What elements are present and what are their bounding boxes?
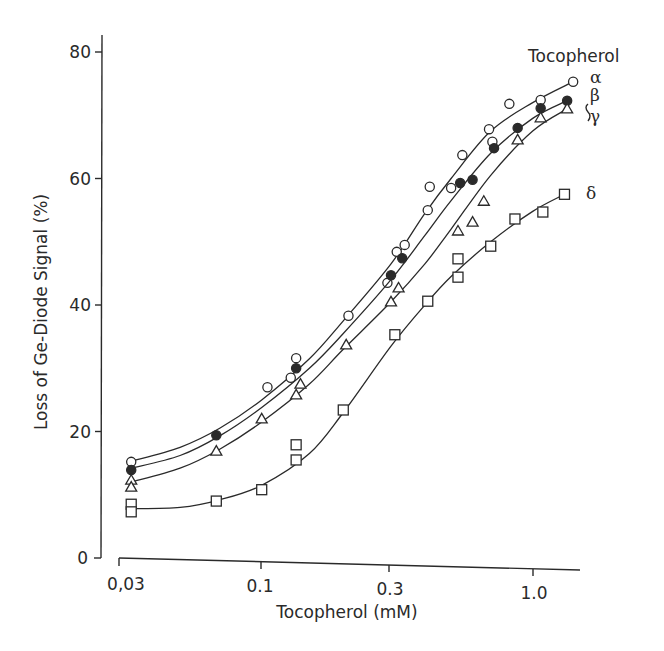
triangle-marker-icon xyxy=(562,103,573,113)
series-label-gamma: γ xyxy=(590,106,600,126)
open-circle-marker-icon xyxy=(569,77,578,86)
x-tick-label: 0.3 xyxy=(376,579,403,599)
open-circle-marker-icon xyxy=(505,99,514,108)
filled-circle-marker-icon xyxy=(398,254,407,263)
x-axis-title: Tocopherol (mM) xyxy=(275,602,417,622)
open-circle-marker-icon xyxy=(344,311,353,320)
series-gamma xyxy=(126,103,573,491)
square-marker-icon xyxy=(453,272,463,282)
open-circle-marker-icon xyxy=(263,383,272,392)
tocopherol-chart: 80 60 40 20 0 Loss of Ge-Diode Signal (%… xyxy=(0,0,664,651)
square-marker-icon xyxy=(510,214,520,224)
square-marker-icon xyxy=(291,455,301,465)
x-tick-label: 1.0 xyxy=(520,583,547,603)
filled-circle-marker-icon xyxy=(127,465,136,474)
series-label-beta: β xyxy=(590,85,600,105)
square-marker-icon xyxy=(453,254,463,264)
open-circle-marker-icon xyxy=(484,125,493,134)
triangle-marker-icon xyxy=(452,225,463,235)
filled-circle-marker-icon xyxy=(468,175,477,184)
triangle-marker-icon xyxy=(291,389,302,399)
filled-circle-marker-icon xyxy=(292,364,301,373)
y-axis-title: Loss of Ge-Diode Signal (%) xyxy=(31,194,51,430)
square-marker-icon xyxy=(559,189,569,199)
filled-circle-marker-icon xyxy=(386,271,395,280)
filled-circle-marker-icon xyxy=(513,123,522,132)
x-tick-label: 0.1 xyxy=(246,576,273,596)
legend-title: Tocopherol xyxy=(527,46,619,66)
x-tick-label: 0,03 xyxy=(107,574,145,594)
series-label-delta: δ xyxy=(586,183,596,203)
y-axis: 80 60 40 20 0 Loss of Ge-Diode Signal (%… xyxy=(31,35,102,568)
triangle-marker-icon xyxy=(512,134,523,144)
square-marker-icon xyxy=(126,507,136,517)
open-circle-marker-icon xyxy=(400,240,409,249)
filled-circle-marker-icon xyxy=(456,178,465,187)
triangle-marker-icon xyxy=(467,217,478,227)
square-marker-icon xyxy=(486,241,496,251)
open-circle-marker-icon xyxy=(425,182,434,191)
open-circle-marker-icon xyxy=(458,150,467,159)
open-circle-marker-icon xyxy=(423,206,432,215)
open-circle-marker-icon xyxy=(447,183,456,192)
triangle-marker-icon xyxy=(393,282,404,292)
triangle-marker-icon xyxy=(478,196,489,206)
x-axis: 0,03 0.1 0.3 1.0 Tocopherol (mM) xyxy=(107,558,580,622)
fit-curve xyxy=(131,109,567,482)
square-marker-icon xyxy=(423,296,433,306)
y-tick-label: 0 xyxy=(77,548,88,568)
square-marker-icon xyxy=(390,330,400,340)
fit-curve xyxy=(131,101,567,469)
y-tick-label: 40 xyxy=(69,295,91,315)
plot-area xyxy=(126,77,578,517)
series-beta xyxy=(127,96,572,475)
triangle-marker-icon xyxy=(341,339,352,349)
square-marker-icon xyxy=(211,496,221,506)
open-circle-marker-icon xyxy=(292,354,301,363)
x-axis-line xyxy=(119,558,580,570)
y-tick-label: 20 xyxy=(69,422,91,442)
y-axis-line xyxy=(101,35,102,558)
filled-circle-marker-icon xyxy=(212,431,221,440)
triangle-marker-icon xyxy=(256,413,267,423)
series-delta xyxy=(126,189,569,517)
square-marker-icon xyxy=(257,485,267,495)
square-marker-icon xyxy=(538,207,548,217)
square-marker-icon xyxy=(291,440,301,450)
y-tick-label: 60 xyxy=(69,169,91,189)
y-tick-label: 80 xyxy=(69,42,91,62)
triangle-marker-icon xyxy=(211,446,222,456)
filled-circle-marker-icon xyxy=(489,144,498,153)
triangle-marker-icon xyxy=(535,112,546,122)
square-marker-icon xyxy=(338,405,348,415)
series-label-alpha: α xyxy=(590,67,602,87)
